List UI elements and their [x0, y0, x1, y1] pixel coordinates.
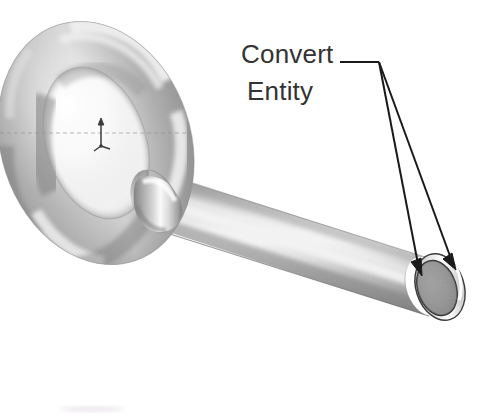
annotation-label-line-2: Entity	[247, 78, 313, 104]
annotation-label-line-1: Convert	[241, 41, 333, 67]
leader-line-1	[379, 62, 418, 264]
scan-artifact-smudge	[60, 407, 124, 412]
leader-line-2	[379, 62, 450, 256]
torus-ring	[0, 0, 225, 290]
cad-screenshot-canvas: Convert Entity	[0, 0, 478, 417]
cad-model-viewport	[0, 0, 478, 417]
